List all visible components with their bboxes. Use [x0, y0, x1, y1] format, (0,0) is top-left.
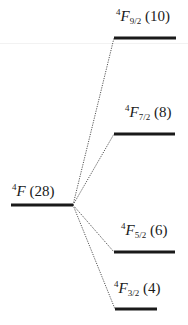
connector-line — [73, 134, 114, 205]
degeneracy: (10) — [145, 8, 170, 24]
term-symbol: F — [17, 183, 26, 199]
term-symbol: F — [126, 222, 135, 238]
energy-level-diagram — [0, 0, 188, 325]
degeneracy: (4) — [143, 280, 161, 296]
j-value: 3/2 — [128, 288, 140, 298]
level-label-f9-2: 4F9/2 (10) — [116, 8, 170, 26]
connectors — [73, 38, 115, 309]
j-value: 9/2 — [130, 16, 142, 26]
degeneracy: (6) — [150, 222, 168, 238]
level-label-f3-2: 4F3/2 (4) — [114, 280, 160, 298]
levels — [11, 38, 176, 309]
level-label-f7-2: 4F7/2 (8) — [125, 104, 171, 122]
j-value: 5/2 — [135, 230, 147, 240]
parent-level-label: 4F (28) — [12, 183, 54, 199]
term-symbol: F — [119, 280, 128, 296]
j-value: 7/2 — [139, 112, 151, 122]
connector-line — [73, 205, 115, 309]
connector-line — [73, 38, 114, 205]
level-label-f5-2: 4F5/2 (6) — [121, 222, 167, 240]
degeneracy: (8) — [154, 104, 172, 120]
degeneracy: (28) — [29, 183, 54, 199]
connector-line — [73, 205, 114, 252]
term-symbol: F — [121, 8, 130, 24]
term-symbol: F — [130, 104, 139, 120]
